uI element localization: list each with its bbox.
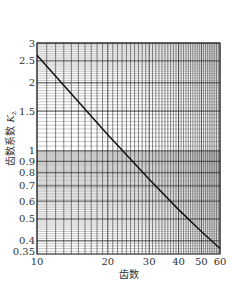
y-tick-label: 3 [29, 38, 35, 49]
y-tick-label: 2 [29, 77, 35, 88]
y-tick-label: 0.4 [19, 235, 35, 246]
chart: 0.350.40.50.60.70.80.911.522.53102030405… [0, 0, 232, 285]
y-tick-label: 0.6 [19, 196, 35, 207]
y-tick-label: 0.8 [19, 167, 35, 178]
x-tick-label: 50 [195, 256, 208, 267]
y-tick-label: 1.5 [19, 106, 35, 117]
x-tick-label: 30 [143, 256, 156, 267]
y-tick-label: 0.5 [19, 213, 35, 224]
x-tick-label: 40 [172, 256, 185, 267]
y-tick-label: 1 [29, 145, 35, 156]
x-axis-ticks: 102030405060 [31, 256, 227, 267]
y-tick-label: 0.7 [19, 180, 35, 191]
x-tick-label: 60 [214, 256, 227, 267]
x-tick-label: 10 [31, 256, 44, 267]
x-tick-label: 20 [101, 256, 114, 267]
y-axis-ticks: 0.350.40.50.60.70.80.911.522.53 [13, 38, 35, 258]
y-tick-label: 0.9 [19, 156, 35, 167]
y-axis-label: 齿数系数 Kz [4, 111, 18, 166]
y-tick-label: 2.5 [19, 55, 35, 66]
x-axis-label: 齿数 [119, 268, 139, 280]
